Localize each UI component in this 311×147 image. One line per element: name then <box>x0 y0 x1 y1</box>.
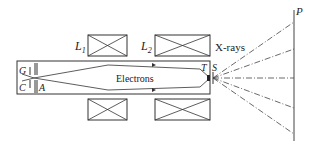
target <box>207 75 210 81</box>
lens-l2-bottom <box>155 99 210 120</box>
lens-l2-top <box>155 35 210 56</box>
label-cathode: C <box>19 82 26 93</box>
label-lens1: L1 <box>74 39 86 55</box>
lens-l1-bottom <box>88 99 127 120</box>
label-grid: G <box>19 65 26 76</box>
electron-tube <box>17 61 210 94</box>
label-lens2: L2 <box>140 39 152 55</box>
label-electrons: Electrons <box>116 73 154 84</box>
label-target: T <box>201 62 208 73</box>
label-anode: A <box>38 82 46 93</box>
label-source: S <box>212 62 217 73</box>
label-xrays: X-rays <box>215 41 245 53</box>
lens-l1-top <box>88 35 127 56</box>
xray-tube-diagram: L1 L2 X-rays Electrons G C A T S P <box>0 0 311 147</box>
xray-beams <box>213 22 294 134</box>
label-plate: P <box>295 5 303 17</box>
